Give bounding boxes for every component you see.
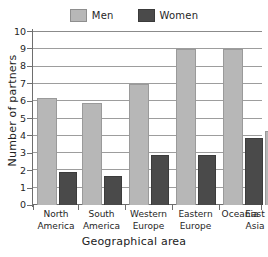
x-tick-label-north-america: North America xyxy=(32,209,80,232)
legend-item-women: Women xyxy=(138,9,199,22)
y-axis-title: Number of partners xyxy=(7,31,18,191)
x-axis-tick-labels: North America South America Western Euro… xyxy=(33,209,262,235)
bar-chart: Men Women 10 9 8 7 6 5 4 3 2 1 0 Number … xyxy=(0,0,268,257)
legend-label-women: Women xyxy=(160,10,199,21)
x-tick-label-eastern-europe: Eastern Europe xyxy=(172,209,219,232)
x-tick-label-south-america: South America xyxy=(78,209,125,232)
x-axis-title: Geographical area xyxy=(0,236,268,248)
y-tick-label-0: 0 xyxy=(2,200,26,210)
x-tick-label-east-asia: East Asia xyxy=(229,209,268,232)
men-swatch-icon xyxy=(70,9,87,22)
bar-men-east-asia xyxy=(265,131,268,205)
legend-item-men: Men xyxy=(70,9,114,22)
chart-legend: Men Women xyxy=(0,7,268,23)
women-swatch-icon xyxy=(138,9,155,22)
legend-label-men: Men xyxy=(92,10,114,21)
x-tick-label-western-europe: Western Europe xyxy=(125,209,172,232)
bar-series-container-3 xyxy=(33,31,262,205)
plot-area xyxy=(33,31,262,205)
